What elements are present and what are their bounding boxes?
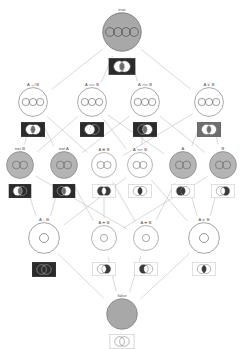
venn-box-nor <box>32 262 56 277</box>
node-circle <box>91 152 117 178</box>
node-circle <box>133 225 159 251</box>
venn-diagram <box>129 184 152 198</box>
lattice-diagram: trueA ↮ BA ⟸ BA ⟹ BA ∨ Bnot Bnot AA ⊕ BA… <box>0 0 244 349</box>
node-circle <box>209 151 237 179</box>
venn-diagram <box>32 262 56 277</box>
lattice-node-b[interactable] <box>209 151 237 183</box>
venn-diagram <box>193 262 216 276</box>
venn-box-not-a <box>53 184 76 198</box>
venn-diagram <box>9 184 32 198</box>
lattice-node-true[interactable] <box>102 12 142 56</box>
venn-box-not-b <box>9 184 32 198</box>
lattice-node-a-xor-b[interactable] <box>91 152 117 182</box>
venn-diagram <box>110 334 135 349</box>
node-circle <box>130 87 160 117</box>
venn-box-a <box>172 184 195 198</box>
node-circle <box>127 152 153 178</box>
lattice-edge <box>104 119 127 149</box>
venn-diagram <box>197 122 221 137</box>
lattice-node-a-imp-b[interactable] <box>130 87 160 121</box>
node-circle <box>50 151 78 179</box>
lattice-node-a-and-not-b[interactable] <box>133 225 159 255</box>
node-circle <box>28 222 60 254</box>
venn-box-false <box>110 334 135 349</box>
node-circle <box>18 87 48 117</box>
lattice-node-a-and-b[interactable] <box>188 222 220 258</box>
node-circle <box>194 87 224 117</box>
venn-box-a-or-b <box>197 122 221 137</box>
venn-box-a-and-not-b <box>135 262 158 276</box>
venn-diagram <box>53 184 76 198</box>
venn-diagram <box>93 184 116 198</box>
lattice-node-not-a-and-b[interactable] <box>91 225 117 255</box>
venn-diagram <box>172 184 195 198</box>
venn-diagram <box>133 122 157 137</box>
venn-diagram <box>135 262 158 276</box>
venn-box-not-a-and-b <box>93 262 116 276</box>
venn-diagram <box>80 122 104 137</box>
node-circle <box>102 12 142 52</box>
lattice-node-nor[interactable] <box>28 222 60 258</box>
venn-diagram <box>93 262 116 276</box>
lattice-node-false[interactable] <box>106 298 138 334</box>
lattice-node-a-iff-b[interactable] <box>127 152 153 182</box>
lattice-node-a[interactable] <box>169 151 197 183</box>
venn-box-a-imp-b <box>133 122 157 137</box>
venn-box-a-and-b <box>193 262 216 276</box>
lattice-edge <box>73 183 94 221</box>
node-circle <box>6 151 34 179</box>
lattice-node-a-revimp-b[interactable] <box>77 87 107 121</box>
node-circle <box>91 225 117 251</box>
node-circle <box>188 222 220 254</box>
venn-diagram <box>212 184 235 198</box>
node-circle <box>77 87 107 117</box>
venn-box-a-iff-b <box>129 184 152 198</box>
lattice-node-not-a[interactable] <box>50 151 78 183</box>
venn-box-a-revimp-b <box>80 122 104 137</box>
lattice-edge <box>58 254 104 299</box>
venn-box-a-xor-b-or <box>21 122 45 137</box>
lattice-node-a-or-b[interactable] <box>194 87 224 121</box>
lattice-edge <box>140 254 189 299</box>
venn-box-a-xor-b <box>93 184 116 198</box>
node-circle <box>106 298 138 330</box>
venn-box-true <box>109 58 136 75</box>
node-circle <box>169 151 197 179</box>
venn-diagram <box>109 58 136 75</box>
venn-box-b <box>212 184 235 198</box>
lattice-node-a-xor-b-or[interactable] <box>18 87 48 121</box>
lattice-node-not-b[interactable] <box>6 151 34 183</box>
venn-diagram <box>21 122 45 137</box>
